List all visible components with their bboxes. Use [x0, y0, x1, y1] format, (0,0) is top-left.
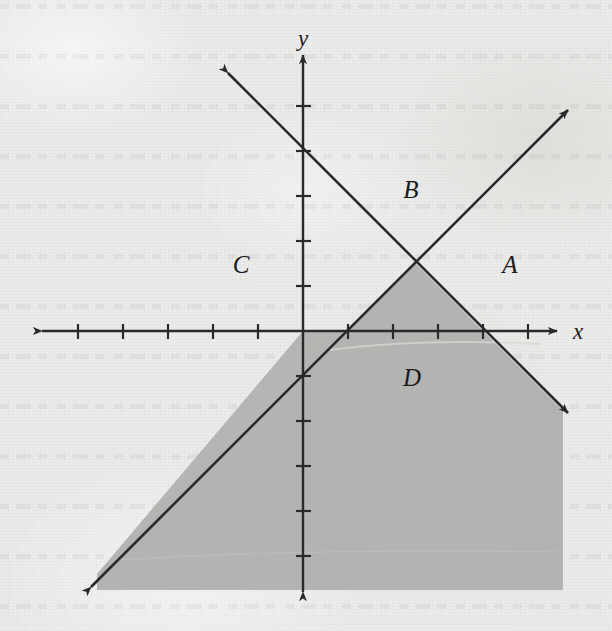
- region-label-b: B: [403, 176, 418, 203]
- x-axis-label: x: [572, 319, 584, 344]
- region-label-d: D: [402, 364, 421, 391]
- shaded-solution-region: [97, 263, 563, 590]
- region-label-a: A: [500, 251, 518, 278]
- y-axis-label: y: [296, 26, 309, 51]
- figure-canvas: x y A B C D: [0, 0, 612, 631]
- coordinate-plane-graph: x y A B C D: [0, 0, 612, 631]
- region-label-c: C: [233, 251, 250, 278]
